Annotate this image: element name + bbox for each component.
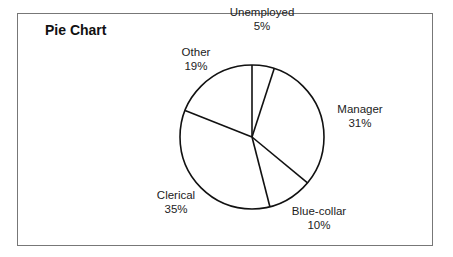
label-other: Other 19% <box>182 45 211 73</box>
label-name: Clerical <box>157 188 195 202</box>
label-blue-collar: Blue-collar 10% <box>292 204 346 232</box>
label-clerical: Clerical 35% <box>157 188 195 216</box>
label-unemployed: Unemployed 5% <box>230 5 295 33</box>
pie-chart <box>0 0 453 257</box>
label-pct: 31% <box>337 116 382 130</box>
label-pct: 35% <box>157 202 195 216</box>
label-name: Other <box>182 45 211 59</box>
label-name: Unemployed <box>230 5 295 19</box>
label-pct: 5% <box>230 19 295 33</box>
label-pct: 10% <box>292 218 346 232</box>
label-pct: 19% <box>182 59 211 73</box>
label-name: Manager <box>337 102 382 116</box>
label-name: Blue-collar <box>292 204 346 218</box>
label-manager: Manager 31% <box>337 102 382 130</box>
